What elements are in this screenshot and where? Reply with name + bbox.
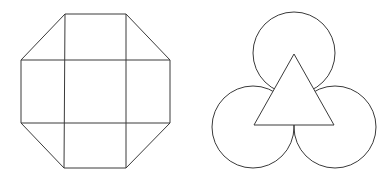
triangle-circles-figure xyxy=(212,12,376,168)
octagon-outline xyxy=(21,14,170,168)
grid-line xyxy=(64,14,65,168)
diagram-canvas xyxy=(0,0,392,175)
triangle-shape xyxy=(254,54,334,125)
geometry-figures xyxy=(0,0,392,175)
octagon-grid-figure xyxy=(21,14,170,168)
